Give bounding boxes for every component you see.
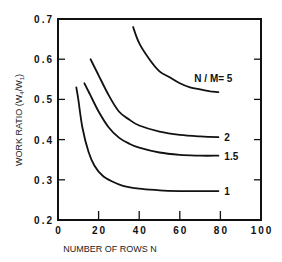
curve-label: 1 xyxy=(224,186,230,197)
x-tick-label: 80 xyxy=(214,225,229,236)
y-tick-label: 0.4 xyxy=(34,135,54,146)
x-tick-label: 100 xyxy=(251,225,274,236)
x-axis-title: NUMBER OF ROWS N xyxy=(63,244,157,254)
y-axis-title: WORK RATIO (W4/W1) xyxy=(14,74,25,166)
x-axis-ticks: 020406080100 xyxy=(55,211,273,236)
curve-label: 1.5 xyxy=(224,151,238,162)
x-tick-label: 0 xyxy=(55,225,63,236)
curves xyxy=(76,27,218,191)
y-tick-label: 0.2 xyxy=(34,215,54,226)
x-tick-label: 60 xyxy=(173,225,188,236)
y-tick-label: 0.7 xyxy=(34,14,54,25)
curve-nm-1.5 xyxy=(84,83,218,155)
y-tick-label: 0.3 xyxy=(34,175,54,186)
curve-nm-2 xyxy=(91,59,219,137)
curve-label: N / M= 5 xyxy=(194,73,233,84)
curve-label: 2 xyxy=(224,132,230,143)
x-tick-label: 40 xyxy=(133,225,148,236)
curve-nm-1 xyxy=(76,87,218,191)
work-ratio-chart: 020406080100 0.20.30.40.50.60.7 N / M= 5… xyxy=(0,0,282,262)
x-tick-label: 20 xyxy=(92,225,107,236)
y-tick-label: 0.5 xyxy=(34,94,54,105)
y-tick-label: 0.6 xyxy=(34,54,54,65)
